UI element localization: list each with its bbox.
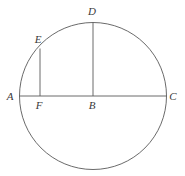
geometry-figure: A F B C D E	[0, 0, 185, 176]
point-label-d: D	[88, 6, 96, 17]
point-label-a: A	[7, 91, 14, 102]
point-label-e: E	[35, 34, 42, 45]
point-label-c: C	[169, 91, 176, 102]
point-label-f: F	[36, 100, 43, 111]
geometry-canvas	[0, 0, 185, 176]
point-label-b: B	[89, 100, 96, 111]
